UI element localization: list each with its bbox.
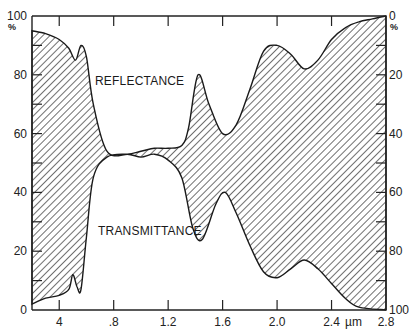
y-right-tick-label: 80 — [389, 244, 403, 258]
y-right-tick-label: 40 — [389, 127, 403, 141]
plot-area: 4.81.21.62.02.42.8 020406080100 10080604… — [7, 9, 409, 329]
hatched-band — [32, 16, 386, 310]
y-left-tick-label: 60 — [14, 127, 28, 141]
x-axis-ticks: 4.81.21.62.02.42.8 — [56, 300, 395, 329]
y-left-tick-label: 100 — [7, 9, 27, 23]
x-tick-label: 4 — [56, 315, 63, 329]
transmittance-label: TRANSMITTANCE — [98, 224, 202, 238]
reflectance-label: REFLECTANCE — [95, 74, 184, 88]
y-left-unit-label: % — [8, 22, 16, 32]
reflectance-transmittance-chart: 4.81.21.62.02.42.8 020406080100 10080604… — [0, 0, 409, 333]
x-tick-label: 2.8 — [378, 315, 395, 329]
x-unit-label: µm — [345, 315, 362, 329]
y-right-tick-label: 0 — [389, 9, 396, 23]
y-right-unit-label: % — [390, 22, 398, 32]
x-tick-label: 1.6 — [214, 315, 231, 329]
y-right-tick-label: 60 — [389, 185, 403, 199]
x-tick-label: 2.4 — [323, 315, 340, 329]
x-tick-label: 2.0 — [269, 315, 286, 329]
y-right-tick-label: 100 — [389, 303, 409, 317]
y-left-tick-label: 40 — [14, 185, 28, 199]
y-left-tick-label: 20 — [14, 244, 28, 258]
y-right-tick-label: 20 — [389, 68, 403, 82]
top-axis-ticks — [59, 16, 331, 26]
y-left-tick-label: 0 — [20, 303, 27, 317]
y-left-tick-label: 80 — [14, 68, 28, 82]
x-tick-label: .8 — [109, 315, 119, 329]
x-tick-label: 1.2 — [160, 315, 177, 329]
